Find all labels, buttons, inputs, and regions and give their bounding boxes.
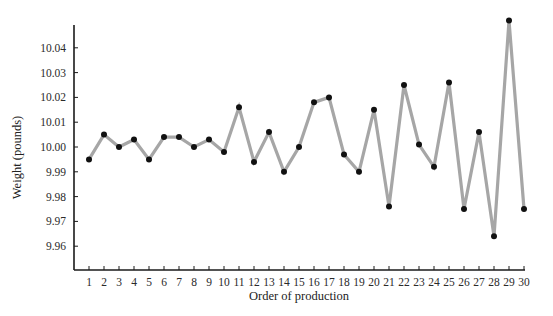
x-tick-label: 12 — [248, 276, 260, 288]
x-tick-label: 7 — [176, 276, 182, 288]
y-tick-label: 10.02 — [40, 91, 66, 103]
x-tick-label: 14 — [278, 276, 290, 288]
x-tick-label: 22 — [398, 276, 410, 288]
y-tick-label: 9.98 — [46, 191, 66, 203]
x-tick-label: 29 — [503, 276, 515, 288]
data-point — [506, 18, 512, 24]
x-tick-label: 28 — [488, 276, 500, 288]
y-tick-label: 10.03 — [40, 67, 66, 79]
data-point — [281, 169, 287, 175]
x-tick-label: 18 — [338, 276, 350, 288]
x-tick-label: 26 — [458, 276, 470, 288]
data-point — [86, 156, 92, 162]
data-point — [326, 94, 332, 100]
data-point — [116, 144, 122, 150]
x-axis-title: Order of production — [74, 289, 524, 304]
x-tick-label: 8 — [191, 276, 197, 288]
x-tick-label: 2 — [101, 276, 107, 288]
y-tick-label: 9.97 — [46, 215, 66, 227]
x-tick-label: 9 — [206, 276, 212, 288]
line-chart: 9.969.979.989.9910.0010.0110.0210.0310.0… — [0, 0, 553, 316]
x-tick-label: 6 — [161, 276, 167, 288]
data-point — [251, 159, 257, 165]
x-tick-label: 1 — [86, 276, 92, 288]
data-point — [521, 206, 527, 212]
x-tick-label: 5 — [146, 276, 152, 288]
data-point — [416, 142, 422, 148]
x-tick-label: 17 — [323, 276, 335, 288]
x-tick-label: 20 — [368, 276, 380, 288]
data-point — [221, 149, 227, 155]
data-point — [356, 169, 362, 175]
data-point — [386, 204, 392, 210]
data-point — [401, 82, 407, 88]
data-point — [476, 129, 482, 135]
x-tick-label: 25 — [443, 276, 455, 288]
data-point — [146, 156, 152, 162]
y-tick-label: 10.04 — [40, 42, 66, 54]
x-tick-label: 4 — [131, 276, 137, 288]
x-tick-label: 11 — [233, 276, 244, 288]
x-tick-label: 27 — [473, 276, 485, 288]
data-point — [296, 144, 302, 150]
x-tick-label: 15 — [293, 276, 305, 288]
data-point — [176, 134, 182, 140]
y-tick-label: 9.96 — [46, 240, 66, 252]
data-point — [161, 134, 167, 140]
y-tick-label: 9.99 — [46, 166, 66, 178]
y-tick-label: 10.01 — [40, 116, 66, 128]
x-tick-label: 10 — [218, 276, 230, 288]
data-point — [266, 129, 272, 135]
data-point — [311, 99, 317, 105]
x-tick-label: 23 — [413, 276, 425, 288]
data-point — [446, 80, 452, 86]
data-point — [491, 233, 497, 239]
data-series — [86, 18, 527, 240]
x-tick-label: 21 — [383, 276, 395, 288]
x-tick-label: 13 — [263, 276, 275, 288]
data-point — [101, 132, 107, 138]
x-tick-label: 16 — [308, 276, 320, 288]
x-tick-label: 30 — [518, 276, 530, 288]
data-point — [236, 104, 242, 110]
x-axis: 1234567891011121314151617181920212223242… — [74, 266, 530, 288]
y-axis: 9.969.979.989.9910.0010.0110.0210.0310.0… — [40, 25, 78, 270]
data-point — [431, 164, 437, 170]
data-point — [131, 137, 137, 143]
x-tick-label: 24 — [428, 276, 440, 288]
x-tick-label: 19 — [353, 276, 365, 288]
series-line — [89, 21, 524, 237]
data-point — [461, 206, 467, 212]
data-point — [191, 144, 197, 150]
y-axis-title: Weight (pounds) — [10, 93, 25, 223]
y-tick-label: 10.00 — [40, 141, 66, 153]
data-point — [371, 107, 377, 113]
data-point — [341, 151, 347, 157]
data-point — [206, 137, 212, 143]
x-tick-label: 3 — [116, 276, 122, 288]
